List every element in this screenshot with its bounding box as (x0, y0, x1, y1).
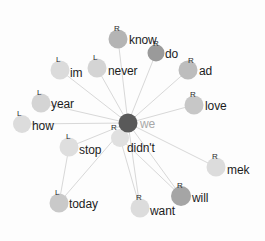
graph-edge (118, 39, 128, 123)
node-tag-want: R (136, 194, 142, 202)
graph-edge (128, 123, 181, 196)
node-tag-today: L (55, 189, 59, 197)
node-label-want: want (150, 205, 175, 217)
node-tag-ad: R (188, 57, 194, 65)
node-label-will: will (192, 192, 208, 204)
node-label-year: year (51, 98, 74, 110)
node-tag-stop: L (66, 133, 70, 141)
node-label-stop: stop (79, 144, 101, 156)
node-tag-mek: R (212, 153, 218, 161)
graph-node-how[interactable] (13, 115, 31, 133)
node-label-im: im (70, 67, 82, 79)
node-tag-we: R (111, 124, 117, 132)
node-label-we: we (140, 118, 155, 130)
node-label-didnt: didn't (127, 142, 155, 154)
node-tag-year: L (37, 89, 41, 97)
node-label-today: today (69, 198, 98, 210)
node-tag-im: L (56, 56, 60, 64)
node-label-never: never (108, 65, 138, 77)
node-label-how: how (32, 120, 54, 132)
node-label-do: do (165, 48, 178, 60)
node-tag-never: L (93, 54, 97, 62)
node-tag-know: R (114, 25, 120, 33)
node-tag-love: R (190, 91, 196, 99)
node-tag-do: R (153, 40, 159, 48)
node-label-ad: ad (199, 65, 212, 77)
node-label-love: love (205, 100, 227, 112)
word-association-graph: knowRdoRadRloveRmekRwillRwantRtodayLstop… (0, 0, 265, 241)
node-label-mek: mek (227, 164, 249, 176)
node-tag-how: L (17, 110, 21, 118)
node-tag-will: R (177, 182, 183, 190)
graph-node-we[interactable] (119, 114, 138, 133)
